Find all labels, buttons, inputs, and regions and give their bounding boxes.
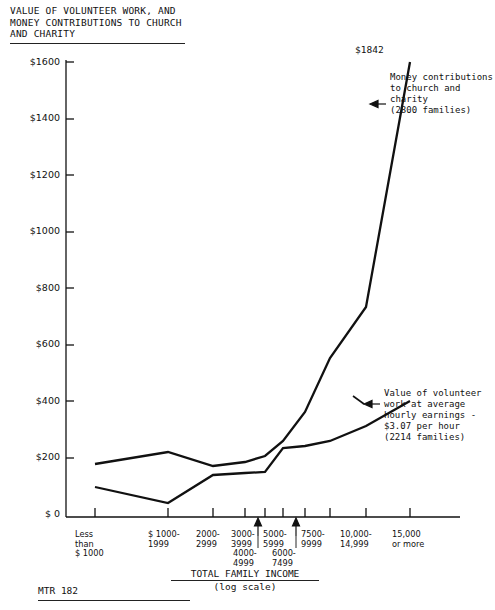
peak-value-label: $1842 — [355, 44, 384, 55]
annotation-arrow-volunteer — [353, 396, 380, 408]
x-tick-label-4000-4999: 4000- 4999 — [233, 549, 273, 568]
series-volunteer-work-line — [95, 401, 410, 503]
footer-underline — [38, 600, 190, 601]
footer-label: MTR 182 — [38, 585, 78, 596]
x-tick-label-5000-5999: 5000- 5999 — [263, 530, 303, 549]
series-money-contributions-line — [95, 62, 410, 466]
series-volunteer-annotation: Value of volunteer work at average hourl… — [384, 388, 494, 443]
x-axis-title-group: TOTAL FAMILY INCOME — [0, 568, 490, 581]
x-axis-title: TOTAL FAMILY INCOME — [191, 568, 300, 579]
x-tick-label-6000-7499: 6000- 7499 — [272, 549, 312, 568]
x-axis-ticks — [95, 508, 410, 517]
annotation-arrow-money — [370, 101, 386, 108]
x-tick-label-7500-9999: 7500- 9999 — [301, 530, 343, 549]
x-tick-label-1000-1999: $ 1000- 1999 — [148, 530, 196, 549]
x-tick-label-10000-14999: 10,000- 14,999 — [340, 530, 386, 549]
axis-lines — [66, 60, 460, 517]
series-money-annotation: Money contributions to church and charit… — [390, 72, 495, 116]
x-tick-label-15000-or-more: 15,000 or more — [392, 530, 440, 549]
x-tick-label-less-than-1000: Less than $ 1000 — [75, 530, 135, 559]
y-axis-ticks — [66, 62, 74, 458]
